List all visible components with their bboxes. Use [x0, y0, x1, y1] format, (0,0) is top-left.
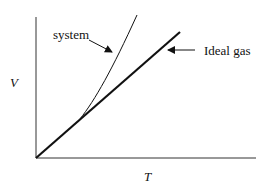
x-axis-label: T [144, 169, 152, 184]
v-vs-t-chart: system Ideal gas V T [0, 0, 263, 190]
y-axis-label: V [10, 75, 20, 90]
system-arrow [89, 40, 112, 52]
system-label: system [53, 27, 89, 42]
ideal-gas-label: Ideal gas [204, 43, 251, 58]
ideal-gas-line [36, 32, 180, 158]
